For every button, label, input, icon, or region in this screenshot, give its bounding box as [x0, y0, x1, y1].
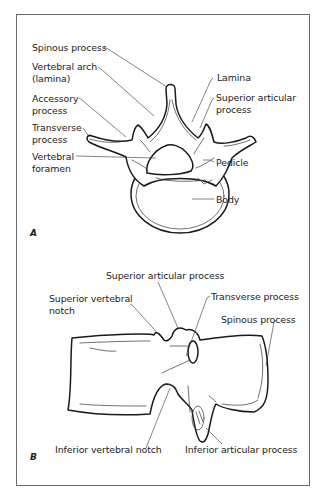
label-vertebral-arch-lamina: (lamina) [32, 73, 70, 84]
label-body: Body [216, 194, 239, 205]
vertebra-lateral-view [68, 328, 268, 442]
vertebral-lateral-shape [68, 328, 268, 442]
label-inferior-articular-process: Inferior articular process [185, 444, 297, 455]
label-transverse-process-a-2: process [32, 134, 67, 145]
label-vertebral-foramen-2: foramen [32, 163, 71, 174]
label-vertebral-arch: Vertebral arch [32, 61, 97, 72]
label-pedicle: Pedicle [216, 157, 248, 168]
label-superior-articular-process-a-2: process [216, 104, 251, 115]
label-transverse-process-b: Transverse process [211, 291, 299, 302]
label-accessory-process: Accessory [32, 93, 78, 104]
label-spinous-process-b: Spinous process [221, 314, 296, 325]
label-superior-vertebral-notch: Superior vertebral [49, 293, 133, 304]
label-transverse-process-a: Transverse [32, 122, 82, 133]
label-vertebral-foramen: Vertebral [32, 151, 74, 162]
label-superior-articular-process-b: Superior articular process [106, 270, 224, 281]
label-accessory-process-2: process [32, 105, 67, 116]
label-superior-articular-process-a: Superior articular [216, 92, 296, 103]
panel-letter-a: A [30, 228, 37, 238]
label-spinous-process-a: Spinous process [32, 42, 107, 53]
label-lamina: Lamina [217, 72, 251, 83]
label-inferior-vertebral-notch: Inferior vertebral notch [55, 444, 162, 455]
label-superior-vertebral-notch-2: notch [49, 305, 75, 316]
panel-letter-b: B [30, 452, 37, 462]
